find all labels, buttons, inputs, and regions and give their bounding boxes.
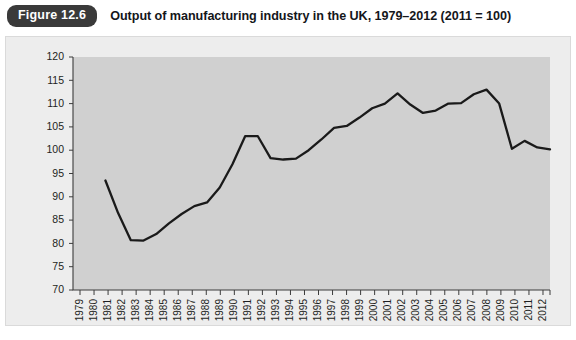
chart-panel [5, 36, 571, 326]
figure-container: Figure 12.6 Output of manufacturing indu… [0, 0, 576, 340]
figure-title: Output of manufacturing industry in the … [110, 9, 511, 23]
figure-header: Figure 12.6 Output of manufacturing indu… [0, 0, 576, 32]
figure-number-badge: Figure 12.6 [7, 5, 97, 26]
